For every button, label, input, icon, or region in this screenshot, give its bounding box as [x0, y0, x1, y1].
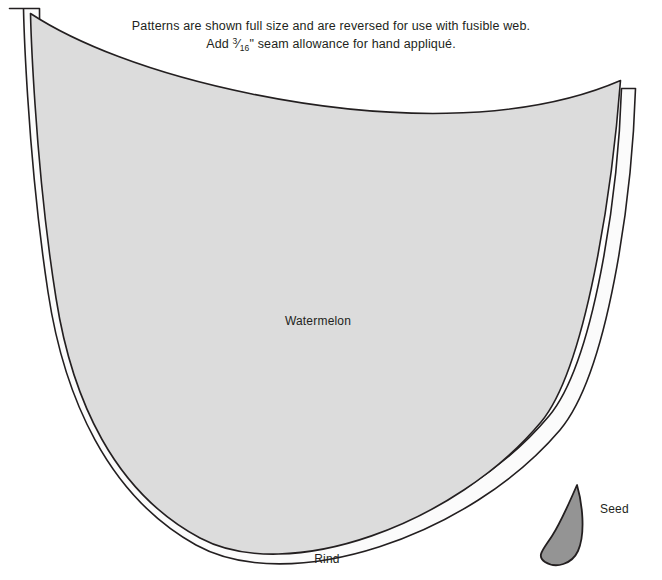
label-rind: Rind	[314, 552, 339, 566]
pattern-canvas: Patterns are shown full size and are rev…	[0, 0, 662, 580]
seed-shape	[541, 485, 583, 565]
instruction-line-1: Patterns are shown full size and are rev…	[132, 19, 530, 33]
seam-allowance-fraction-denominator: 16	[240, 43, 250, 53]
label-seed: Seed	[600, 502, 629, 516]
instruction-line-2: Add 3⁄16" seam allowance for hand appliq…	[206, 36, 456, 53]
instruction-line-2-suffix: " seam allowance for hand appliqué.	[249, 37, 455, 51]
pattern-page: Patterns are shown full size and are rev…	[0, 0, 662, 580]
label-watermelon: Watermelon	[285, 314, 351, 328]
instruction-line-2-prefix: Add	[206, 37, 232, 51]
